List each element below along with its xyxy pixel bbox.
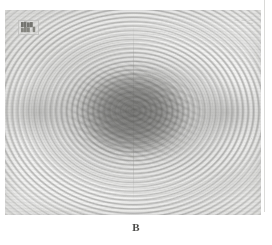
shading-lobe-left bbox=[5, 82, 95, 144]
shading-lobe-right bbox=[171, 82, 261, 144]
dust-speck bbox=[18, 156, 19, 157]
figure-caption: B bbox=[0, 221, 272, 233]
core-halo bbox=[18, 38, 248, 188]
dust-speck bbox=[97, 88, 99, 89]
saddle-core bbox=[77, 70, 189, 156]
plate-label-top-right-line1: —— —— —— bbox=[235, 18, 253, 22]
dust-speck bbox=[177, 196, 178, 197]
page-gutter-line bbox=[264, 0, 265, 212]
dust-speck bbox=[27, 72, 28, 73]
core-diagonal-fringes bbox=[58, 57, 208, 169]
paper-blotch-overlay bbox=[5, 10, 261, 215]
plate-label-top-right-line2: ——— bbox=[235, 22, 253, 26]
vertical-meridian-seam bbox=[133, 22, 134, 202]
core-counter-fringes bbox=[67, 64, 199, 162]
secondary-fringe-rings bbox=[5, 10, 261, 215]
plate-label-top-left-line2: ▆█▇ ▉ bbox=[21, 27, 36, 32]
plate-label-top-right: —— —— ————— bbox=[235, 18, 253, 26]
dust-speck bbox=[219, 50, 220, 51]
scan-grain-overlay bbox=[5, 10, 261, 215]
interferogram-plate: █▉▇█▆█▇ ▉ —— —— ————— bbox=[5, 10, 261, 215]
dust-speck bbox=[251, 138, 252, 139]
figure-root: █▉▇█▆█▇ ▉ —— —— ————— B bbox=[0, 0, 272, 245]
plate-label-top-left: █▉▇█▆█▇ ▉ bbox=[18, 20, 39, 35]
concentric-fringe-rings bbox=[5, 10, 261, 215]
plate-label-top-left-line1: █▉▇█ bbox=[21, 22, 33, 27]
